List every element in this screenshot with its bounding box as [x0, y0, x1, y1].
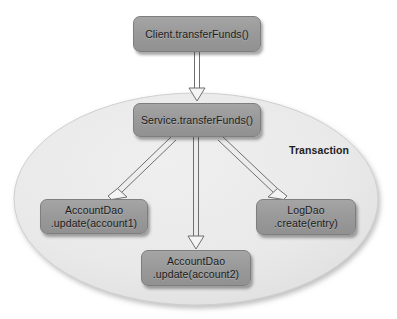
- node-logdao-label-line2: .create(entry): [274, 217, 338, 230]
- node-client-transfer-funds[interactable]: Client.transferFunds(): [133, 16, 261, 52]
- node-account-dao-update-account1[interactable]: AccountDao .update(account1): [40, 199, 148, 234]
- node-account1-label-line2: .update(account1): [51, 217, 137, 230]
- node-account1-label-line1: AccountDao: [65, 204, 123, 217]
- node-client-label-line1: Client.transferFunds(): [145, 28, 249, 41]
- node-account-dao-update-account2[interactable]: AccountDao .update(account2): [141, 250, 251, 286]
- node-service-transfer-funds[interactable]: Service.transferFunds(): [133, 103, 261, 137]
- node-account2-label-line1: AccountDao: [167, 255, 225, 268]
- transaction-boundary-label: Transaction: [289, 144, 349, 156]
- node-service-label-line1: Service.transferFunds(): [141, 114, 253, 127]
- node-account2-label-line2: .update(account2): [153, 268, 239, 281]
- node-log-dao-create-entry[interactable]: LogDao .create(entry): [256, 199, 356, 235]
- node-logdao-label-line1: LogDao: [287, 204, 324, 217]
- diagram-canvas: Transaction Client.transferFunds() Servi…: [0, 0, 397, 319]
